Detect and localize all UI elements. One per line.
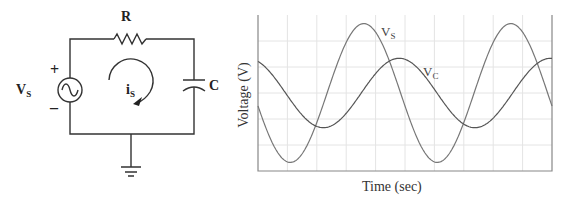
y-axis-label: Voltage (V): [237, 62, 251, 127]
vc-series-label: VC: [423, 65, 438, 81]
x-axis-label: Time (sec): [362, 180, 422, 194]
vs-series-label: VS: [381, 25, 395, 41]
figure: R C + – VS iS VS VC Time (sec) Voltage (…: [0, 0, 568, 201]
chart-grid: [258, 15, 552, 171]
voltage-time-chart: [0, 0, 568, 201]
